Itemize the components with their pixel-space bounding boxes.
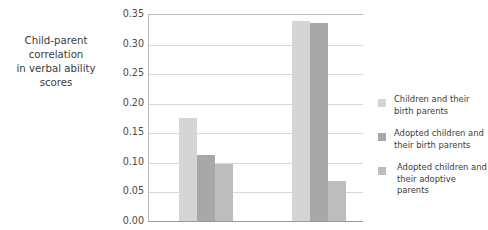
legend-item-label-line-1: Adopted children and	[394, 128, 488, 140]
y-axis-tick-label: 0.10	[108, 157, 144, 167]
plot-area	[148, 14, 363, 222]
legend-item[interactable]: Children and theirbirth parents	[378, 94, 488, 118]
y-axis-tick-label: 0.25	[108, 68, 144, 78]
bar	[197, 155, 215, 221]
legend-item-label: Children and theirbirth parents	[394, 94, 488, 117]
bar	[310, 23, 328, 221]
legend-item-label: Adopted children andtheir adoptive paren…	[397, 162, 488, 197]
legend-item[interactable]: Adopted children andtheir birth parents	[378, 128, 488, 152]
y-axis-title-line-2: in verbal ability scores	[0, 62, 112, 90]
legend-swatch-icon	[378, 99, 386, 107]
chart-legend: Children and theirbirth parentsAdopted c…	[378, 94, 488, 207]
y-axis-tick-label: 0.05	[108, 186, 144, 196]
gridline	[149, 104, 363, 105]
legend-item-label: Adopted children andtheir birth parents	[394, 128, 488, 151]
y-axis-tick-label: 0.35	[108, 9, 144, 19]
legend-item-label-line-2: their adoptive parents	[397, 174, 488, 197]
legend-item-label-line-1: Children and their	[394, 94, 488, 106]
legend-item-label-line-2: their birth parents	[394, 140, 488, 152]
legend-item[interactable]: Adopted children andtheir adoptive paren…	[378, 162, 488, 197]
gridline	[149, 74, 363, 75]
legend-item-label-line-2: birth parents	[394, 106, 488, 118]
y-axis-tick-label: 0.30	[108, 39, 144, 49]
gridline	[149, 45, 363, 46]
bar	[328, 181, 346, 221]
y-axis-title-line-1: Child-parent correlation	[0, 34, 112, 62]
y-axis-tick-label: 0.15	[108, 127, 144, 137]
legend-item-label-line-1: Adopted children and	[397, 162, 488, 174]
bar	[215, 164, 233, 221]
legend-swatch-icon	[378, 167, 386, 175]
legend-swatch-icon	[378, 133, 386, 141]
y-axis-tick-label: 0.20	[108, 98, 144, 108]
bar	[179, 118, 197, 222]
y-axis-tick-labels: 0.350.300.250.200.150.100.050.00	[108, 0, 144, 230]
bar	[292, 21, 310, 221]
bar-chart-figure: Child-parent correlation in verbal abili…	[0, 0, 488, 230]
y-axis-tick-label: 0.00	[108, 216, 144, 226]
y-axis-title: Child-parent correlation in verbal abili…	[0, 34, 112, 90]
